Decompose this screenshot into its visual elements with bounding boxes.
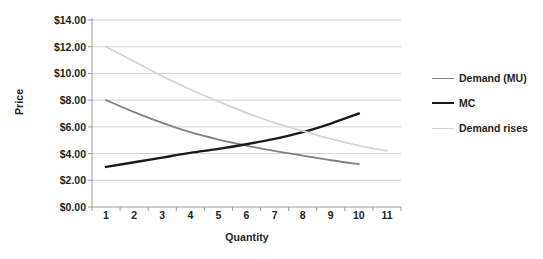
x-tick-label: 4	[187, 209, 193, 221]
legend-item[interactable]: MC	[432, 91, 542, 115]
x-tick-label: 6	[244, 209, 250, 221]
legend-item[interactable]: Demand rises	[432, 116, 542, 140]
x-tick-label: 5	[215, 209, 221, 221]
x-tick-label: 2	[131, 209, 137, 221]
x-tick-label: 1	[103, 209, 109, 221]
legend-color-swatch	[432, 128, 454, 129]
x-tick-label: 7	[272, 209, 278, 221]
legend-label: MC	[459, 97, 475, 109]
chart-legend: Demand (MU)MCDemand rises	[432, 66, 542, 141]
x-tick-label: 10	[353, 209, 365, 221]
x-tick-label: 11	[381, 209, 392, 221]
series-line-2	[106, 47, 387, 151]
legend-label: Demand rises	[459, 122, 528, 134]
chart-container: Price $0.00$2.00$4.00$6.00$8.00$10.00$12…	[0, 0, 543, 259]
legend-color-swatch	[432, 78, 454, 79]
legend-label: Demand (MU)	[459, 72, 527, 84]
x-tick-label: 8	[300, 209, 306, 221]
series-line-0	[106, 100, 359, 164]
legend-item[interactable]: Demand (MU)	[432, 66, 542, 90]
x-tick-label: 3	[159, 209, 165, 221]
x-axis-title: Quantity	[92, 231, 402, 243]
x-tick-label: 9	[328, 209, 334, 221]
legend-color-swatch	[432, 102, 454, 104]
